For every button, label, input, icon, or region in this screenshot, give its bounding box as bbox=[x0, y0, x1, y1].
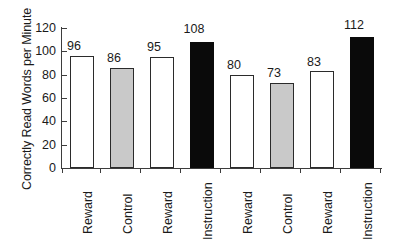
y-tick-label-group: 100 bbox=[20, 45, 56, 57]
x-axis-label-reward-4: Reward bbox=[320, 191, 336, 234]
x-tick-mark bbox=[380, 168, 381, 173]
y-tick-label: 20 bbox=[22, 139, 56, 151]
bar-value-label: 95 bbox=[138, 41, 170, 54]
bar-value-label: 96 bbox=[58, 40, 90, 53]
x-axis-label-instruction-2: Instruction bbox=[360, 182, 376, 240]
x-tick-mark bbox=[260, 168, 261, 173]
bar-instruction-2 bbox=[350, 37, 374, 168]
plot-area bbox=[62, 28, 382, 168]
bar-value-label: 83 bbox=[298, 56, 330, 69]
bar-reward-2 bbox=[150, 57, 174, 168]
y-tick-label-group: 40 bbox=[20, 115, 56, 127]
y-tick-label: 0 bbox=[22, 162, 56, 174]
x-tick-mark bbox=[100, 168, 101, 173]
x-tick-mark bbox=[62, 168, 63, 173]
y-tick-label: 100 bbox=[22, 45, 56, 57]
y-tick-label: 80 bbox=[22, 69, 56, 81]
y-tick-label-group: 120 bbox=[20, 22, 56, 34]
x-axis-label-reward-2: Reward bbox=[160, 191, 176, 234]
y-tick-label: 40 bbox=[22, 115, 56, 127]
x-axis-label-control-2: Control bbox=[280, 194, 296, 234]
bar-value-label: 108 bbox=[174, 23, 214, 36]
bar-value-label: 112 bbox=[334, 19, 374, 32]
x-axis-label-instruction-1: Instruction bbox=[200, 182, 216, 240]
y-tick-label-group: 60 bbox=[20, 92, 56, 104]
x-axis-label-reward-3: Reward bbox=[240, 191, 256, 234]
x-tick-mark bbox=[340, 168, 341, 173]
bar-instruction-1 bbox=[190, 42, 214, 168]
bar-value-label: 73 bbox=[258, 67, 290, 80]
bar-value-label: 86 bbox=[98, 52, 130, 65]
x-tick-mark bbox=[180, 168, 181, 173]
x-tick-mark bbox=[140, 168, 141, 173]
x-tick-mark bbox=[300, 168, 301, 173]
bar-control-1 bbox=[110, 68, 134, 168]
x-tick-mark bbox=[220, 168, 221, 173]
x-axis-label-control-1: Control bbox=[120, 194, 136, 234]
y-tick-label-group: 0 bbox=[20, 162, 56, 174]
bar-reward-3 bbox=[230, 75, 254, 168]
y-tick-label-group: 80 bbox=[20, 69, 56, 81]
bar-control-2 bbox=[270, 83, 294, 168]
bar-chart: Correctly Read Words per Minute 120 100 … bbox=[0, 0, 402, 242]
bar-reward-1 bbox=[70, 56, 94, 168]
y-tick-label-group: 20 bbox=[20, 139, 56, 151]
y-tick-label: 120 bbox=[22, 22, 56, 34]
bar-value-label: 80 bbox=[218, 59, 250, 72]
x-axis-label-reward-1: Reward bbox=[80, 191, 96, 234]
y-tick-label: 60 bbox=[22, 92, 56, 104]
bar-reward-4 bbox=[310, 71, 334, 168]
